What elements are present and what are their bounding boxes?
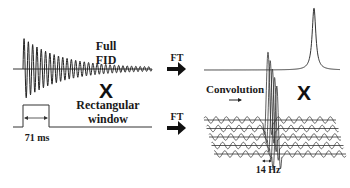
ft-arrow-bottom-icon	[167, 121, 186, 135]
rectangular-window-label-line2: window	[66, 113, 150, 125]
linewidth-arrow-left-head	[262, 160, 265, 163]
full-fid-label-line2: FID	[86, 54, 126, 66]
convolution-arrow-head	[238, 98, 242, 102]
full-fid-label-line1: Full	[86, 40, 126, 52]
duration-label: 71 ms	[20, 133, 54, 143]
rectangular-window-label: Rectangular window	[66, 99, 150, 125]
duration-arrow-right-head	[44, 116, 48, 120]
ft-label-top: FT	[167, 53, 187, 63]
ft-label-bottom: FT	[167, 112, 187, 122]
spectrum-narrow-peak	[204, 8, 340, 70]
duration-arrow-left-head	[24, 116, 28, 120]
full-fid-label: Full FID	[86, 40, 126, 66]
linewidth-label: 14 Hz	[254, 165, 282, 175]
rectangular-window-label-line1: Rectangular	[66, 99, 150, 111]
multiply-symbol-right: X	[297, 82, 311, 103]
convolution-label: Convolution	[206, 84, 264, 95]
ft-arrow-top-icon	[167, 62, 186, 76]
